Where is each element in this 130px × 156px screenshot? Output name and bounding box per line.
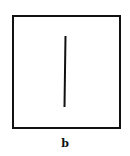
square-frame (12, 15, 121, 129)
panel-label: b (58, 138, 72, 150)
